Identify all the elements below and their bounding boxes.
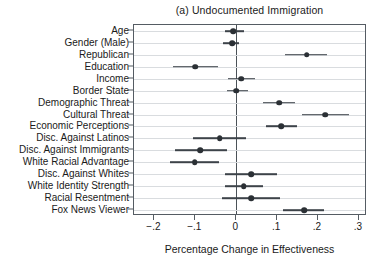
point-estimate-dot	[229, 40, 235, 46]
y-axis-tick-label: White Identity Strength	[3, 180, 133, 191]
gridline	[134, 55, 365, 56]
y-axis-tick-label: White Racial Advantage	[3, 156, 133, 167]
y-axis-tick-label: Gender (Male)	[3, 36, 133, 47]
gridline	[134, 43, 365, 44]
x-axis-tick-label: −.2	[146, 221, 160, 232]
x-axis-tick-label: .3	[354, 221, 362, 232]
x-axis-tick	[276, 215, 277, 220]
x-axis-tick-label: .1	[272, 221, 280, 232]
y-axis-tick-label: Cultural Threat	[3, 108, 133, 119]
plot-frame	[133, 24, 366, 215]
x-axis-tick-label: 0	[232, 221, 238, 232]
point-estimate-dot	[192, 159, 198, 165]
point-estimate-dot	[238, 76, 244, 82]
y-axis-tick-label: Age	[3, 24, 133, 35]
point-estimate-dot	[248, 171, 254, 177]
point-estimate-dot	[304, 52, 310, 58]
point-estimate-dot	[193, 64, 199, 70]
gridline	[134, 138, 365, 139]
x-axis-tick	[358, 215, 359, 220]
x-axis: −.2−.10.1.2.3	[133, 215, 366, 245]
x-axis-tick	[235, 215, 236, 220]
gridline	[134, 126, 365, 127]
point-estimate-dot	[278, 124, 284, 130]
gridline	[134, 162, 365, 163]
point-estimate-dot	[217, 136, 223, 142]
y-axis-tick-label: Disc. Against Whites	[3, 168, 133, 179]
point-estimate-dot	[301, 207, 307, 213]
x-axis-tick	[153, 215, 154, 220]
gridline	[134, 210, 365, 211]
coefficient-plot-figure: (a) Undocumented Immigration AgeGender (…	[0, 0, 383, 268]
y-axis-tick-label: Disc. Against Latinos	[3, 132, 133, 143]
plot-area	[134, 25, 365, 214]
point-estimate-dot	[233, 88, 239, 94]
x-axis-tick-label: −.1	[187, 221, 201, 232]
point-estimate-dot	[241, 183, 247, 189]
point-estimate-dot	[230, 28, 236, 34]
y-axis-tick-label: Republican	[3, 48, 133, 59]
y-axis-tick-label: Racial Resentment	[3, 192, 133, 203]
point-estimate-dot	[248, 195, 254, 201]
gridline	[134, 31, 365, 32]
y-axis-tick-label: Demographic Threat	[3, 96, 133, 107]
point-estimate-dot	[276, 100, 282, 106]
y-axis-tick-label: Income	[3, 72, 133, 83]
x-axis-tick	[194, 215, 195, 220]
gridline	[134, 91, 365, 92]
point-estimate-dot	[323, 112, 329, 118]
gridline	[134, 67, 365, 68]
y-axis-tick-label: Border State	[3, 84, 133, 95]
gridline	[134, 103, 365, 104]
y-axis-tick-label: Fox News Viewer	[3, 204, 133, 215]
x-axis-tick	[317, 215, 318, 220]
gridline	[134, 150, 365, 151]
y-axis-tick-label: Disc. Against Immigrants	[3, 144, 133, 155]
point-estimate-dot	[197, 148, 203, 154]
x-axis-title: Percentage Change in Effectiveness	[133, 243, 366, 255]
x-axis-tick-label: .2	[313, 221, 321, 232]
y-axis-label-column: AgeGender (Male)RepublicanEducationIncom…	[0, 24, 133, 215]
chart-title: (a) Undocumented Immigration	[133, 4, 366, 16]
y-axis-tick-label: Economic Perceptions	[3, 120, 133, 131]
y-axis-tick-label: Education	[3, 60, 133, 71]
